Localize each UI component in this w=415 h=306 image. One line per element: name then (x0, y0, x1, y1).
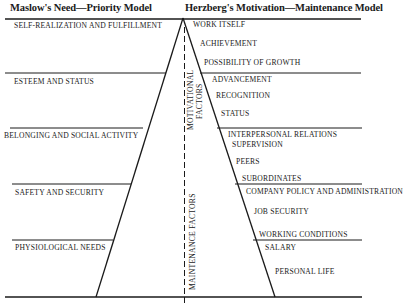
herzberg-factor-job-security: JOB SECURITY (254, 207, 309, 216)
motivational-factors-label-line1: MOTIVATIONAL (186, 70, 195, 130)
maslow-level-esteem: ESTEEM AND STATUS (14, 77, 94, 86)
herzberg-factor-supervision: SUPERVISION (232, 140, 283, 149)
maslow-title: Maslow's Need—Priority Model (10, 2, 152, 13)
maintenance-factors-label: MAINTENANCE FACTORS (188, 193, 197, 290)
herzberg-factor-working-conditions: WORKING CONDITIONS (259, 230, 348, 239)
herzberg-factor-work-itself: WORK ITSELF (193, 20, 245, 29)
herzberg-title: Herzberg's Motivation—Maintenance Model (185, 2, 383, 13)
herzberg-factor-interpersonal-relations: INTERPERSONAL RELATIONS (228, 130, 337, 139)
herzberg-factor-achievement: ACHIEVEMENT (200, 39, 257, 48)
maslow-level-belonging: BELONGING AND SOCIAL ACTIVITY (4, 131, 138, 140)
triangle-left-edge (96, 18, 183, 297)
herzberg-factor-growth: POSSIBILITY OF GROWTH (204, 58, 300, 67)
motivational-factors-label-line2: FACTORS (195, 83, 204, 119)
maslow-level-physiological: PHYSIOLOGICAL NEEDS (15, 243, 106, 252)
herzberg-factor-personal-life: PERSONAL LIFE (275, 267, 335, 276)
herzberg-factor-salary: SALARY (265, 243, 296, 252)
herzberg-factor-recognition: RECOGNITION (216, 91, 270, 100)
maslow-level-safety: SAFETY AND SECURITY (15, 188, 104, 197)
herzberg-factor-peers: PEERS (236, 157, 260, 166)
maslow-level-self-realization: SELF-REALIZATION AND FULFILLMENT (14, 21, 162, 30)
herzberg-factor-advancement: ADVANCEMENT (212, 75, 272, 84)
herzberg-factor-company-policy: COMPANY POLICY AND ADMINISTRATION (246, 187, 403, 196)
herzberg-factor-subordinates: SUBORDINATES (242, 174, 301, 183)
herzberg-factor-status: STATUS (221, 109, 249, 118)
